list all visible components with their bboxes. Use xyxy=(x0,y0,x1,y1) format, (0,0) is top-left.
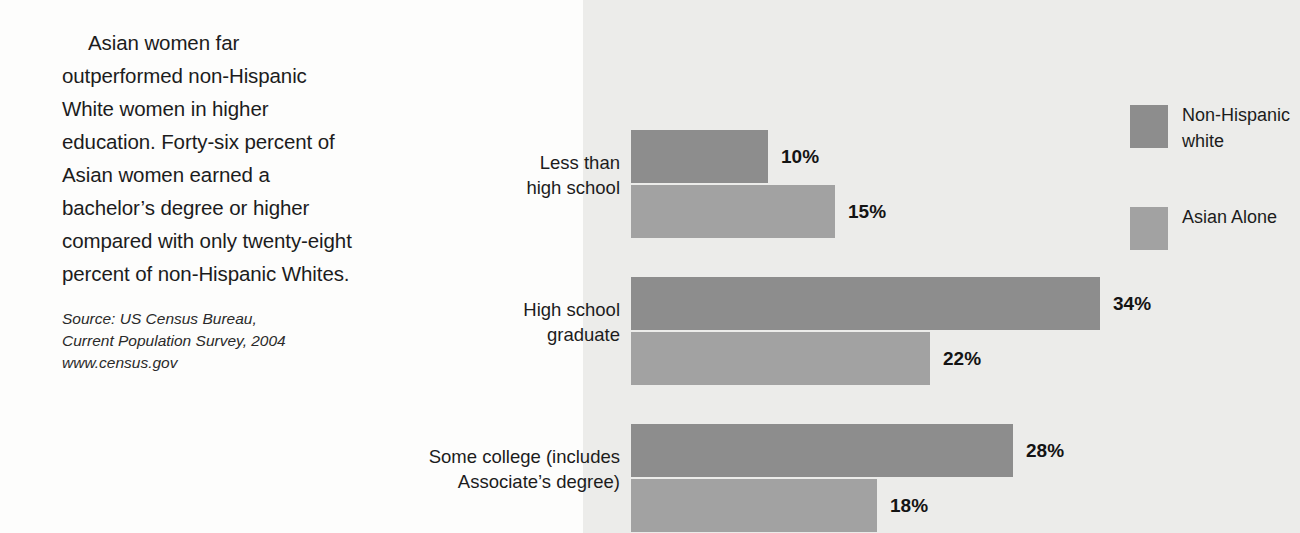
bar-value-non-hispanic-white-g1: 10% xyxy=(781,146,819,168)
bar-value-non-hispanic-white-g3: 28% xyxy=(1026,440,1064,462)
bar-chart-plot: Less than high school 10% 15% High schoo… xyxy=(0,0,1300,533)
bar-asian-alone-g3 xyxy=(631,479,877,532)
bar-asian-alone-g1 xyxy=(631,185,835,238)
category-label-some-college: Some college (includes Associate’s degre… xyxy=(340,444,620,494)
chart-figure: Asian women far outperformed non-Hispani… xyxy=(0,0,1300,533)
category-label-less-than-high-school: Less than high school xyxy=(360,150,620,200)
bar-value-asian-alone-g1: 15% xyxy=(848,201,886,223)
bar-value-non-hispanic-white-g2: 34% xyxy=(1113,293,1151,315)
bar-value-asian-alone-g3: 18% xyxy=(890,495,928,517)
bar-non-hispanic-white-g3 xyxy=(631,424,1013,477)
category-label-high-school-graduate: High school graduate xyxy=(360,297,620,347)
bar-non-hispanic-white-g1 xyxy=(631,130,768,183)
bar-asian-alone-g2 xyxy=(631,332,930,385)
bar-non-hispanic-white-g2 xyxy=(631,277,1100,330)
bar-value-asian-alone-g2: 22% xyxy=(943,348,981,370)
